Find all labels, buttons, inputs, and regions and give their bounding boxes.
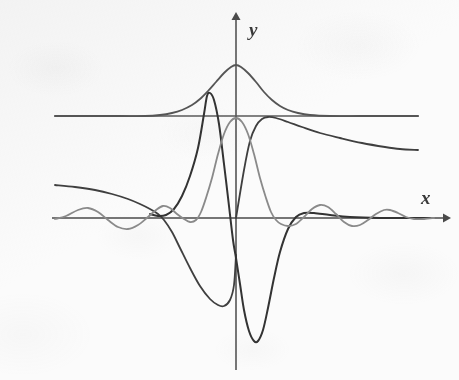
y-axis-label: y	[249, 20, 257, 39]
plot-canvas	[0, 0, 459, 380]
curve-decaying-curve	[236, 117, 418, 218]
x-axis-label: x	[421, 188, 431, 207]
curve-series-group	[55, 65, 434, 342]
y-axis-arrowhead	[232, 12, 241, 20]
math-figure: y x	[0, 0, 459, 380]
x-axis-arrowhead	[443, 214, 451, 223]
curve-declining-left-curve	[55, 185, 236, 306]
axes-group	[52, 12, 451, 370]
curve-sinc-oscillation-curve	[55, 118, 434, 229]
